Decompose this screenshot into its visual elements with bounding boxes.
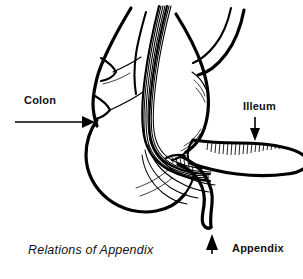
figure-caption: Relations of Appendix [28,243,154,257]
label-colon-text: Colon [24,94,56,106]
illustration-canvas: Colon Illeum Appendix Relations of Appen… [0,0,303,279]
anatomical-figure-relations-of-appendix: Colon Illeum Appendix Relations of Appen… [0,0,303,279]
label-appendix-text: Appendix [232,242,284,254]
label-illeum-text: Illeum [243,100,276,112]
